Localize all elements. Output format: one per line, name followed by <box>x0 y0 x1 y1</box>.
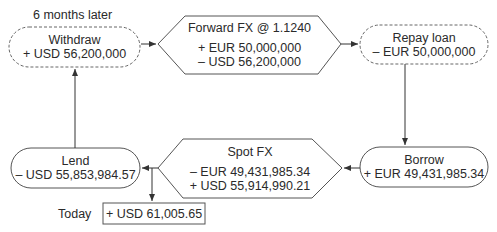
borrow-title: Borrow <box>404 153 444 167</box>
spot-fx-title: Spot FX <box>227 145 272 159</box>
result-amount: + USD 61,005.65 <box>106 207 202 221</box>
spot-fx-usd: + USD 55,914,990.21 <box>190 179 311 193</box>
repay-loan-amount: – EUR 50,000,000 <box>373 45 476 59</box>
withdraw-node: Withdraw + USD 56,200,000 <box>9 27 140 67</box>
lend-amount: – USD 55,853,984.57 <box>15 168 135 182</box>
six-months-later-label: 6 months later <box>33 8 112 22</box>
forward-fx-title: Forward FX @ 1.1240 <box>188 21 311 35</box>
borrow-amount: + EUR 49,431,985.34 <box>364 167 485 181</box>
lend-node: Lend – USD 55,853,984.57 <box>11 148 140 188</box>
withdraw-title: Withdraw <box>48 33 100 47</box>
repay-loan-node: Repay loan – EUR 50,000,000 <box>360 25 488 64</box>
forward-fx-node: Forward FX @ 1.1240 + EUR 50,000,000 – U… <box>158 16 341 74</box>
withdraw-amount: + USD 56,200,000 <box>23 47 126 61</box>
forward-fx-eur: + EUR 50,000,000 <box>198 41 301 55</box>
spot-fx-node: Spot FX – EUR 49,431,985.34 + USD 55,914… <box>158 139 342 198</box>
today-label: Today <box>58 207 91 221</box>
lend-title: Lend <box>62 154 90 168</box>
borrow-node: Borrow + EUR 49,431,985.34 <box>360 147 488 187</box>
result-node: + USD 61,005.65 <box>103 203 205 224</box>
spot-fx-eur: – EUR 49,431,985.34 <box>190 165 310 179</box>
forward-fx-usd: – USD 56,200,000 <box>198 55 301 69</box>
repay-loan-title: Repay loan <box>392 31 455 45</box>
